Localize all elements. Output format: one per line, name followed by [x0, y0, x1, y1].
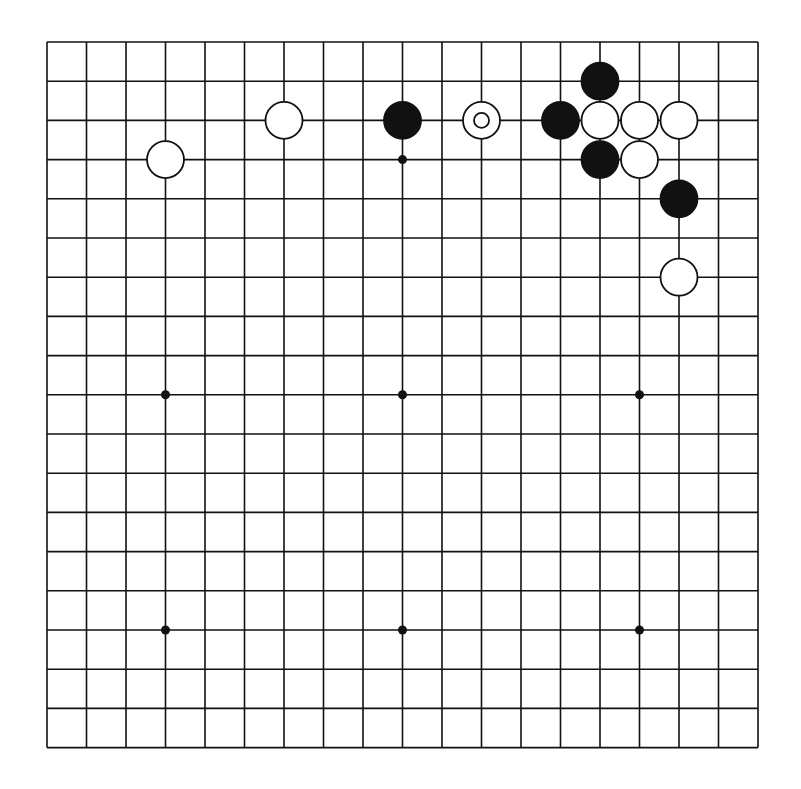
star-point	[161, 390, 170, 399]
black-stone[interactable]	[582, 141, 619, 178]
white-stone[interactable]	[582, 102, 619, 139]
star-point	[161, 626, 170, 635]
white-stone[interactable]	[661, 102, 698, 139]
white-stone[interactable]	[463, 102, 500, 139]
black-stone[interactable]	[661, 180, 698, 217]
white-stone[interactable]	[266, 102, 303, 139]
go-board[interactable]	[0, 0, 801, 789]
white-stone[interactable]	[621, 141, 658, 178]
black-stone[interactable]	[542, 102, 579, 139]
star-point	[398, 155, 407, 164]
white-stone[interactable]	[621, 102, 658, 139]
stones-layer	[147, 63, 698, 296]
black-stone[interactable]	[582, 63, 619, 100]
star-point	[398, 390, 407, 399]
white-stone[interactable]	[147, 141, 184, 178]
star-point	[635, 626, 644, 635]
star-point	[398, 626, 407, 635]
black-stone[interactable]	[384, 102, 421, 139]
white-stone[interactable]	[661, 259, 698, 296]
star-point	[635, 390, 644, 399]
